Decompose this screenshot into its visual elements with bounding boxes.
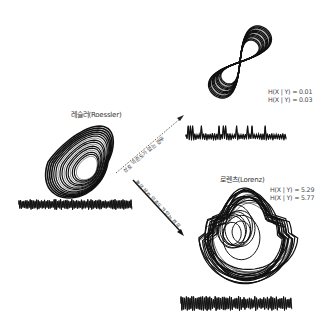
lorenz-attractor-uncoupled [209, 26, 272, 98]
lorenz-title: 로렌츠(Lorenz) [220, 174, 264, 184]
roessler-attractor [46, 126, 114, 198]
lorenz-loop [221, 40, 259, 84]
lorenz-time-series-coupled [181, 296, 292, 311]
diagram-canvas [0, 0, 334, 336]
lorenz-inner-loop [216, 204, 252, 248]
time-series-trace [186, 127, 286, 141]
roessler-time-series [19, 199, 132, 210]
entropy-coupled-2: H(X | Y) = 5.77 [270, 194, 314, 203]
roessler-title: 레슬러(Roessler) [71, 109, 121, 119]
lorenz-inner-loop [223, 215, 260, 259]
lorenz-time-series-uncoupled [186, 126, 286, 141]
arrowhead-icon [177, 229, 184, 236]
entropy-uncoupled-2: H(X | Y) = 0.03 [268, 96, 312, 105]
